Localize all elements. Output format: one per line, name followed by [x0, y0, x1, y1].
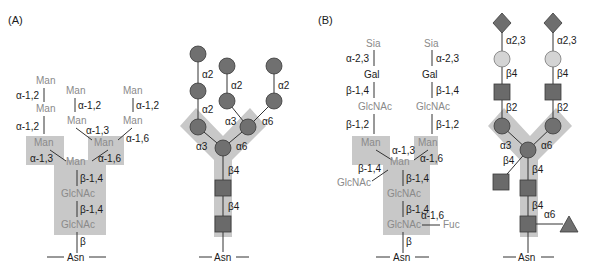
- mannose-icon: [240, 119, 256, 135]
- man-label: Man: [66, 156, 85, 167]
- man-label: Man: [94, 137, 113, 148]
- glcnac-label: GlcNAc: [61, 188, 95, 199]
- svg-text:β-1,2: β-1,2: [436, 119, 459, 130]
- glcnac-icon: [215, 180, 231, 196]
- man-label: Man: [67, 115, 86, 126]
- svg-text:α2: α2: [278, 80, 290, 91]
- man-label: Man: [418, 137, 437, 148]
- mannose-icon: [219, 58, 235, 74]
- man-label: Man: [123, 85, 142, 96]
- glcnac-icon: [520, 216, 536, 232]
- panel-a-text-diagram: (A) Man α-1,2 Man α-1,2 Man Man α-1,2 Ma…: [8, 14, 159, 263]
- svg-text:α-1,2: α-1,2: [78, 100, 101, 111]
- svg-text:β-1,4: β-1,4: [80, 173, 103, 184]
- svg-text:α-1,3: α-1,3: [392, 145, 415, 156]
- glcnac-label: GlcNAc: [337, 177, 371, 188]
- svg-text:α-2,3: α-2,3: [436, 53, 459, 64]
- mannose-icon: [545, 118, 561, 134]
- svg-text:β2: β2: [506, 102, 518, 113]
- svg-text:β-1,4: β-1,4: [358, 163, 381, 174]
- svg-text:α-1,3: α-1,3: [30, 153, 53, 164]
- mannose-icon: [190, 119, 206, 135]
- svg-text:α6: α6: [236, 141, 248, 152]
- svg-text:α-1,6: α-1,6: [126, 133, 149, 144]
- svg-text:β-1,2: β-1,2: [346, 119, 369, 130]
- man-label: Man: [361, 137, 380, 148]
- svg-text:α6: α6: [262, 116, 274, 127]
- mannose-icon: [219, 93, 235, 109]
- panel-b-symbol-diagram: α2,3 α2,3 β4 β4 β2 β2 α3 α6 β4 β4 β4 α6 …: [488, 13, 578, 263]
- svg-text:α2: α2: [202, 104, 214, 115]
- svg-text:α-1,2: α-1,2: [16, 121, 39, 132]
- svg-text:α2,3: α2,3: [506, 35, 526, 46]
- asn-label: Asn: [518, 252, 535, 263]
- svg-text:α6: α6: [541, 140, 553, 151]
- sialic-acid-icon: [493, 13, 511, 33]
- mannose-icon: [190, 83, 206, 99]
- svg-text:β-1,4: β-1,4: [406, 173, 429, 184]
- glcnac-label: GlcNAc: [416, 101, 450, 112]
- svg-text:α-1,6: α-1,6: [421, 210, 444, 221]
- svg-text:β4: β4: [503, 155, 515, 166]
- svg-text:α-2,3: α-2,3: [346, 53, 369, 64]
- svg-text:α-1,3: α-1,3: [86, 125, 109, 136]
- svg-text:β4: β4: [506, 68, 518, 79]
- sia-label: Sia: [366, 38, 381, 49]
- man-label: Man: [34, 137, 53, 148]
- galactose-icon: [494, 51, 510, 67]
- glcnac-icon: [520, 180, 536, 196]
- glcnac-icon: [545, 84, 561, 100]
- man-label: Man: [36, 75, 55, 86]
- sia-label: Sia: [424, 38, 439, 49]
- asn-label: Asn: [214, 252, 231, 263]
- svg-text:β: β: [406, 236, 412, 247]
- fuc-label: Fuc: [443, 219, 460, 230]
- svg-text:β: β: [80, 236, 86, 247]
- svg-text:α-1,2: α-1,2: [136, 100, 159, 111]
- panel-b-text-diagram: (B) Sia α-2,3 Gal β-1,4 GlcNAc β-1,2 Man…: [318, 14, 460, 263]
- panel-a-label: (A): [8, 14, 23, 26]
- mannose-icon: [520, 142, 536, 158]
- mannose-icon: [215, 140, 231, 156]
- glcnac-label: GlcNAc: [387, 188, 421, 199]
- gal-label: Gal: [364, 69, 380, 80]
- asn-label: Asn: [67, 252, 84, 263]
- svg-text:β-1,4: β-1,4: [80, 204, 103, 215]
- mannose-icon: [266, 58, 282, 74]
- svg-text:α3: α3: [500, 140, 512, 151]
- svg-text:β-1,4: β-1,4: [346, 85, 369, 96]
- glcnac-label: GlcNAc: [61, 219, 95, 230]
- svg-text:β4: β4: [532, 200, 544, 211]
- svg-text:α-1,6: α-1,6: [420, 153, 443, 164]
- man-label: Man: [66, 85, 85, 96]
- svg-text:β4: β4: [228, 201, 240, 212]
- man-label: Man: [36, 103, 55, 114]
- gal-label: Gal: [422, 69, 438, 80]
- glcnac-icon: [215, 216, 231, 232]
- svg-text:α3: α3: [196, 141, 208, 152]
- svg-text:α2: α2: [202, 69, 214, 80]
- sialic-acid-icon: [544, 13, 562, 33]
- mannose-icon: [494, 118, 510, 134]
- svg-text:α6: α6: [544, 209, 556, 220]
- mannose-icon: [190, 46, 206, 62]
- svg-text:α-1,2: α-1,2: [16, 90, 39, 101]
- panel-b-label: (B): [318, 14, 333, 26]
- man-label: Man: [390, 156, 409, 167]
- svg-text:β4: β4: [557, 68, 569, 79]
- svg-text:α2,3: α2,3: [557, 35, 577, 46]
- svg-text:α2: α2: [231, 80, 243, 91]
- man-label: Man: [123, 115, 142, 126]
- galactose-icon: [545, 51, 561, 67]
- asn-label: Asn: [393, 252, 410, 263]
- svg-text:β4: β4: [228, 165, 240, 176]
- svg-text:α3: α3: [225, 116, 237, 127]
- svg-text:α-1,6: α-1,6: [98, 153, 121, 164]
- glcnac-icon: [493, 174, 509, 190]
- svg-text:β2: β2: [557, 102, 569, 113]
- svg-text:β4: β4: [532, 164, 544, 175]
- glycan-figure: (A) Man α-1,2 Man α-1,2 Man Man α-1,2 Ma…: [0, 0, 597, 269]
- svg-text:β-1,4: β-1,4: [436, 85, 459, 96]
- glcnac-icon: [494, 84, 510, 100]
- glcnac-label: GlcNAc: [358, 101, 392, 112]
